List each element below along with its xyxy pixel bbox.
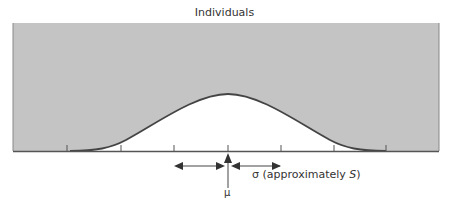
- mean-arrow-icon: [224, 153, 232, 188]
- distribution-diagram: [0, 0, 449, 208]
- sigma-arrow-left-icon: [174, 162, 225, 170]
- shaded-region: [13, 23, 439, 151]
- mu-label: μ: [224, 187, 230, 198]
- sigma-label: σ (approximately S): [252, 168, 361, 181]
